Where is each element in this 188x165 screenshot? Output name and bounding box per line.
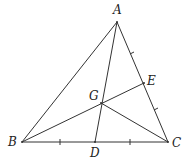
tick-mark-ec — [154, 108, 158, 110]
point-g — [100, 102, 102, 104]
point-a — [116, 21, 118, 23]
segment-gc — [101, 103, 168, 142]
segment-ad — [95, 22, 117, 142]
segment-ac — [117, 22, 168, 142]
point-e — [143, 82, 145, 84]
segment-be — [22, 83, 144, 142]
point-b — [21, 141, 23, 143]
point-c — [167, 141, 169, 143]
label-g: G — [89, 90, 99, 102]
label-b: B — [8, 136, 17, 148]
label-a: A — [113, 4, 122, 16]
label-e: E — [147, 75, 156, 87]
triangle-diagram: A B C D E G — [0, 0, 188, 165]
diagram-lines — [0, 0, 188, 165]
segment-ab — [22, 22, 117, 142]
label-d: D — [90, 147, 100, 159]
label-c: C — [172, 137, 181, 149]
point-d — [94, 141, 96, 143]
